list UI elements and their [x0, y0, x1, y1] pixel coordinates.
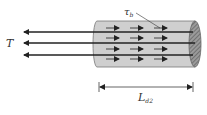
- tension-label: T: [6, 37, 15, 50]
- development-length-dimension: [99, 82, 193, 92]
- development-length-label: Ld2: [137, 91, 153, 104]
- bond-stress-label: τb: [124, 6, 134, 18]
- bond-stress-diagram: τb T Ld2: [0, 0, 207, 115]
- cylinder-end-face: [189, 21, 201, 67]
